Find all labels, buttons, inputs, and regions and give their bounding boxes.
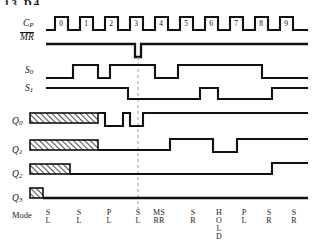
mode-entry-line: D bbox=[208, 233, 230, 241]
mode-entry: SR bbox=[283, 209, 305, 225]
clock-pulse-number: 7 bbox=[231, 20, 241, 28]
mode-entry-line: L bbox=[233, 217, 255, 225]
waveform-q2 bbox=[30, 163, 308, 174]
q1-undefined-region bbox=[30, 140, 98, 150]
waveform-s0 bbox=[46, 65, 308, 78]
mode-entry: SL bbox=[68, 209, 90, 225]
mode-entry-line: R bbox=[283, 217, 305, 225]
mode-entry: SL bbox=[127, 209, 149, 225]
clock-pulse-number: 6 bbox=[206, 20, 216, 28]
signal-label-clock: CP bbox=[23, 19, 34, 29]
clock-pulse-number: 1 bbox=[81, 20, 91, 28]
clock-pulse-number: 2 bbox=[106, 20, 116, 28]
signal-label-q3: Q3 bbox=[12, 194, 22, 204]
signal-label-q0: Q0 bbox=[12, 117, 22, 127]
mode-entry-line: L bbox=[37, 217, 59, 225]
clock-pulse-number: 0 bbox=[56, 20, 66, 28]
mode-entry: SL bbox=[37, 209, 59, 225]
clock-pulse-number: 5 bbox=[181, 20, 191, 28]
clock-pulse-number: 3 bbox=[131, 20, 141, 28]
mode-entry: HOLD bbox=[208, 209, 230, 242]
mode-entry-line: R bbox=[258, 217, 280, 225]
q3-undefined-region bbox=[30, 188, 43, 198]
timing-diagram-figure: 13 D4 bbox=[0, 0, 312, 252]
signal-label-q1: Q1 bbox=[12, 146, 22, 156]
mode-entry: MSRR bbox=[148, 209, 170, 225]
mode-entry-line: R bbox=[182, 217, 204, 225]
mode-entry: SR bbox=[258, 209, 280, 225]
clock-pulse-number: 8 bbox=[256, 20, 266, 28]
signal-label-s1: S1 bbox=[25, 84, 33, 94]
mode-entry: SR bbox=[182, 209, 204, 225]
mode-entry-line: L bbox=[98, 217, 120, 225]
waveform-q0 bbox=[30, 113, 308, 126]
mode-entry: PL bbox=[98, 209, 120, 225]
signal-label-s0: S0 bbox=[25, 66, 33, 76]
mode-entry-line: L bbox=[68, 217, 90, 225]
waveform-q1 bbox=[30, 139, 308, 152]
waveform-q3 bbox=[30, 188, 308, 198]
signal-label-master-reset: MR bbox=[20, 32, 34, 43]
mode-entry-line: L bbox=[127, 217, 149, 225]
mode-entry: PL bbox=[233, 209, 255, 225]
q0-undefined-region bbox=[30, 113, 98, 123]
waveform-s1 bbox=[46, 88, 308, 99]
mode-row-label: Mode bbox=[12, 210, 32, 220]
signal-label-q2: Q2 bbox=[12, 170, 22, 180]
q2-undefined-region bbox=[30, 164, 70, 174]
mode-entry-line: RR bbox=[148, 217, 170, 225]
clock-pulse-number: 9 bbox=[281, 20, 291, 28]
clock-pulse-number: 4 bbox=[156, 20, 166, 28]
waveform-master-reset bbox=[46, 44, 308, 57]
